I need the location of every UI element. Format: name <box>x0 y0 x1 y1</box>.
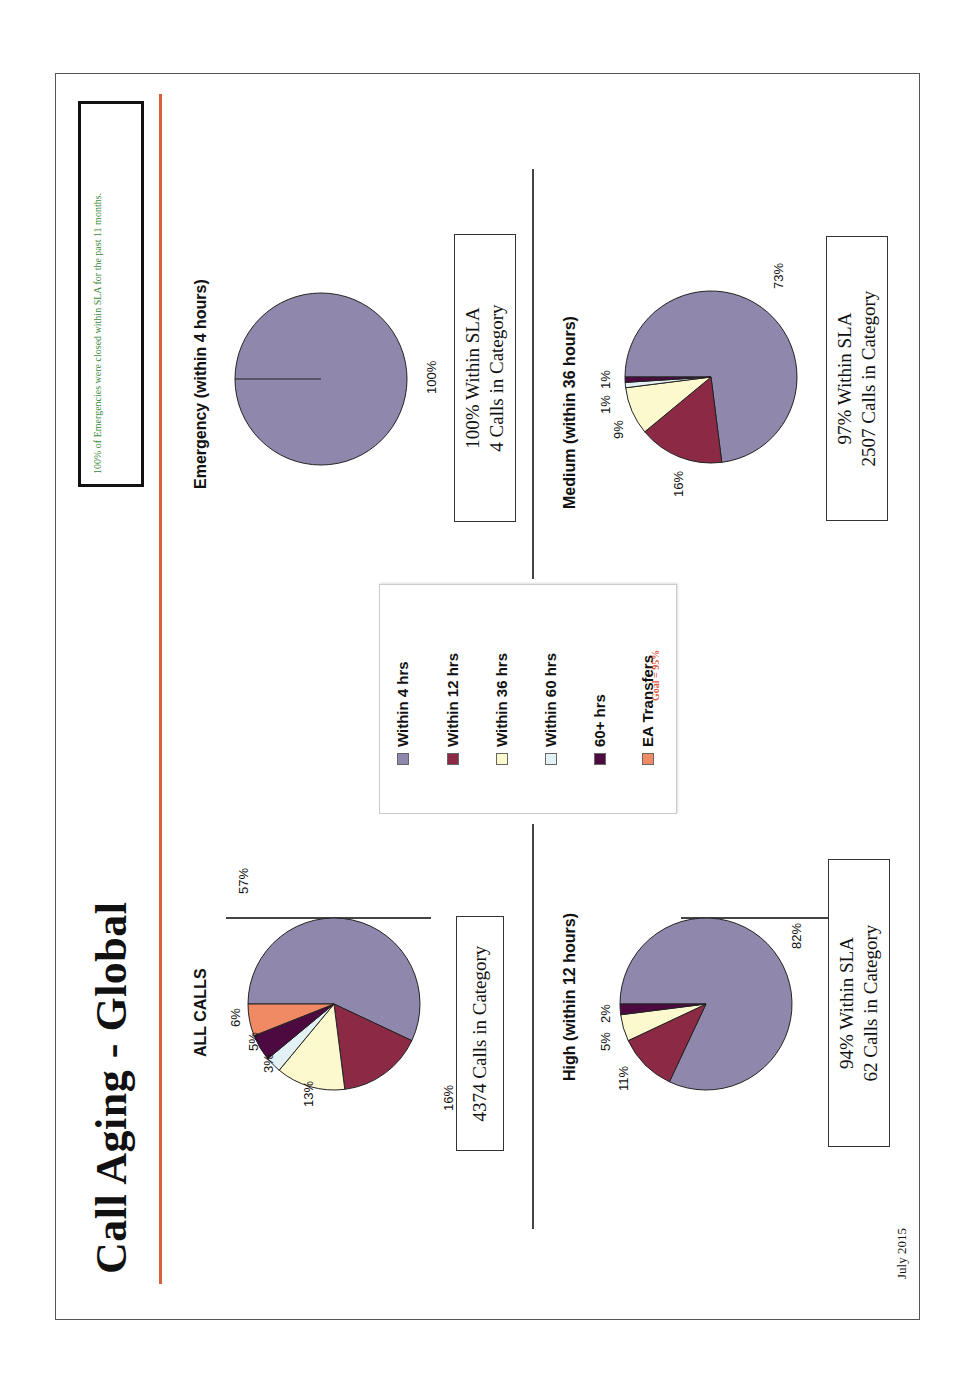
legend-item-within-12: Within 12 hrs <box>444 653 461 765</box>
legend-item-60-plus: 60+ hrs <box>591 694 608 765</box>
high-label-5: 5% <box>598 1032 613 1051</box>
high-label-2: 2% <box>598 1004 613 1023</box>
medium-label-16: 16% <box>671 471 686 497</box>
emergency-note-box: 100% of Emergencies were closed within S… <box>78 101 144 487</box>
medium-label-73: 73% <box>771 263 786 289</box>
medium-label-1a: 1% <box>598 395 613 414</box>
title-rule <box>159 94 162 1284</box>
all-label-16: 16% <box>441 1085 456 1111</box>
page-title: Call Aging - Global <box>86 901 137 1274</box>
medium-pie <box>623 289 799 465</box>
emergency-box-line2: 4 Calls in Category <box>485 235 509 521</box>
date-label: July 2015 <box>894 1228 910 1279</box>
slide: Call Aging - Global 100% of Emergencies … <box>55 73 920 1320</box>
legend: Within 4 hrs Within 12 hrs Within 36 hrs… <box>379 584 677 814</box>
medium-box-line2: 2507 Calls in Category <box>857 237 881 520</box>
all-calls-box-line1: 4374 Calls in Category <box>468 917 492 1150</box>
all-label-6: 6% <box>228 1008 243 1027</box>
emergency-note-text: 100% of Emergencies were closed within S… <box>92 193 103 474</box>
emergency-label-100: 100% <box>424 361 439 394</box>
high-pie <box>618 916 794 1092</box>
legend-item-within-36: Within 36 hrs <box>493 653 510 765</box>
high-label-82: 82% <box>789 923 804 949</box>
all-label-57: 57% <box>236 868 251 894</box>
high-box-line1: 94% Within SLA <box>835 860 859 1146</box>
high-label-11: 11% <box>616 1066 631 1091</box>
emergency-box-line1: 100% Within SLA <box>461 235 485 521</box>
legend-swatch-icon <box>594 753 606 765</box>
legend-swatch-icon <box>397 753 409 765</box>
high-box: 94% Within SLA 62 Calls in Category <box>828 859 890 1147</box>
legend-swatch-icon <box>642 753 654 765</box>
all-label-3: 3% <box>261 1054 276 1073</box>
all-calls-box: 4374 Calls in Category <box>456 916 504 1151</box>
medium-box: 97% Within SLA 2507 Calls in Category <box>826 236 888 521</box>
legend-item-within-60: Within 60 hrs <box>542 653 559 765</box>
medium-title: Medium (within 36 hours) <box>561 316 579 509</box>
medium-label-9: 9% <box>611 420 626 439</box>
legend-item-within-4: Within 4 hrs <box>394 661 411 765</box>
all-calls-title: ALL CALLS <box>192 968 210 1057</box>
high-title: High (within 12 hours) <box>561 913 579 1081</box>
legend-swatch-icon <box>447 753 459 765</box>
medium-box-line1: 97% Within SLA <box>833 237 857 520</box>
emergency-pie <box>233 291 409 467</box>
divider-horizontal-left <box>532 824 534 1229</box>
emergency-box: 100% Within SLA 4 Calls in Category <box>454 234 516 522</box>
emergency-title: Emergency (within 4 hours) <box>192 279 210 489</box>
goal-label: Goal = 95% <box>650 650 661 701</box>
all-label-5: 5% <box>246 1032 261 1051</box>
high-box-line2: 62 Calls in Category <box>859 860 883 1146</box>
all-label-13: 13% <box>301 1081 316 1107</box>
divider-horizontal-right <box>532 169 534 579</box>
legend-swatch-icon <box>496 753 508 765</box>
medium-label-1b: 1% <box>598 370 613 389</box>
legend-swatch-icon <box>545 753 557 765</box>
